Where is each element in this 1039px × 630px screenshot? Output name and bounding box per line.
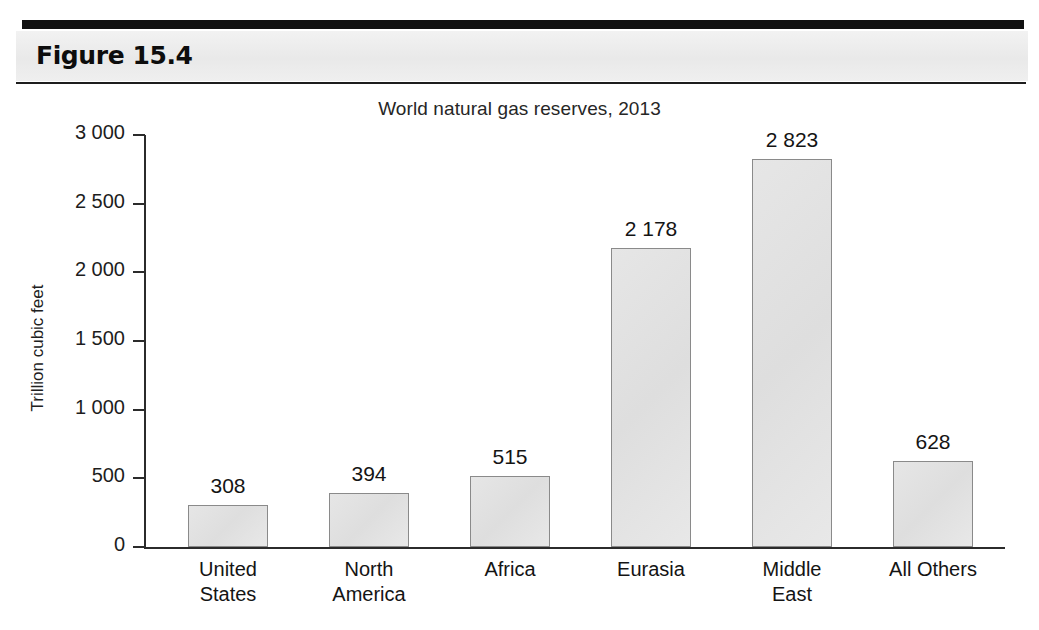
bar (188, 505, 268, 547)
bar (752, 159, 832, 547)
bar-value-label: 515 (440, 445, 580, 469)
x-axis-category-label-line: States (156, 582, 300, 607)
plot-area: Trillion cubic feet 05001 0001 5002 0002… (0, 88, 1039, 630)
bar-value-label: 308 (158, 474, 298, 498)
x-axis-category-label: NorthAmerica (297, 557, 441, 607)
x-axis-category-label-line: United (156, 557, 300, 582)
x-axis-category-label: MiddleEast (720, 557, 864, 607)
x-axis-category-label: Eurasia (579, 557, 723, 582)
bar-chart: World natural gas reserves, 2013 Trillio… (0, 88, 1039, 630)
y-axis-tick (133, 546, 145, 548)
x-axis-category-label-line: Eurasia (579, 557, 723, 582)
bar (329, 493, 409, 547)
y-axis-tick-label: 2 000 (5, 258, 125, 281)
x-axis-category-label-line: East (720, 582, 864, 607)
figure-header: Figure 15.4 (0, 0, 1039, 88)
x-axis-category-label-line: America (297, 582, 441, 607)
x-axis-category-label-line: Africa (438, 557, 582, 582)
bar (611, 248, 691, 547)
y-axis-tick (133, 271, 145, 273)
x-axis-category-label-line: Middle (720, 557, 864, 582)
x-axis-line (144, 547, 1005, 549)
y-axis-line (144, 135, 146, 549)
header-bottom-rule (16, 82, 1026, 84)
x-axis-category-label-line: All Others (861, 557, 1005, 582)
y-axis-tick-label: 3 000 (5, 121, 125, 144)
bar-value-label: 628 (863, 430, 1003, 454)
figure-label: Figure 15.4 (36, 41, 193, 70)
bar (893, 461, 973, 547)
y-axis-tick (133, 409, 145, 411)
y-axis-tick (133, 340, 145, 342)
x-axis-category-label: Africa (438, 557, 582, 582)
y-axis-tick-label: 500 (5, 464, 125, 487)
bar-value-label: 394 (299, 462, 439, 486)
bar (470, 476, 550, 547)
y-axis-tick-label: 0 (5, 533, 125, 556)
bar-value-label: 2 823 (722, 128, 862, 152)
x-axis-category-label: UnitedStates (156, 557, 300, 607)
x-axis-category-label-line: North (297, 557, 441, 582)
y-axis-tick (133, 203, 145, 205)
y-axis-tick-label: 1 500 (5, 327, 125, 350)
header-top-rule (22, 20, 1024, 29)
x-axis-category-label: All Others (861, 557, 1005, 582)
y-axis-tick-label: 1 000 (5, 396, 125, 419)
y-axis-tick (133, 134, 145, 136)
bar-value-label: 2 178 (581, 217, 721, 241)
y-axis-tick (133, 477, 145, 479)
y-axis-tick-label: 2 500 (5, 190, 125, 213)
